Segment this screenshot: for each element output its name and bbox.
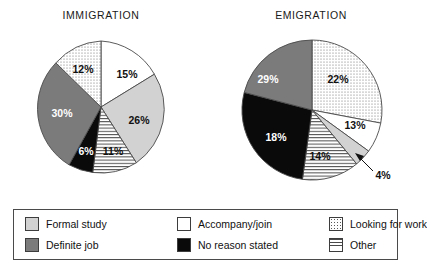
legend-label-other: Other xyxy=(350,240,376,251)
label-emigration-looking-for-work: 22% xyxy=(327,73,349,85)
immigration-chart-title: IMMIGRATION xyxy=(0,9,202,21)
label-emigration-formal-study: 4% xyxy=(375,169,391,181)
dark-gray-swatch-icon xyxy=(25,238,39,252)
label-immigration-formal-study: 26% xyxy=(128,114,150,126)
legend-label-accompany-join: Accompany/join xyxy=(198,219,272,230)
emigration-pie-chart: 22% 13% 14% 18% 29% 4% xyxy=(206,22,412,192)
label-emigration-no-reason-stated: 18% xyxy=(265,131,287,143)
legend-label-formal-study: Formal study xyxy=(46,219,107,230)
legend-item-other: Other xyxy=(329,238,410,252)
legend-label-looking-for-work: Looking for work xyxy=(350,219,427,230)
dotted-swatch-icon xyxy=(329,217,343,231)
legend-item-no-reason-stated: No reason stated xyxy=(177,238,329,252)
legend-label-no-reason-stated: No reason stated xyxy=(198,240,278,251)
white-swatch-icon xyxy=(177,217,191,231)
legend-label-definite-job: Definite job xyxy=(46,240,99,251)
black-swatch-icon xyxy=(177,238,191,252)
legend-item-definite-job: Definite job xyxy=(25,238,177,252)
label-immigration-accompany-join: 15% xyxy=(116,68,138,80)
label-emigration-other: 14% xyxy=(309,150,331,162)
label-immigration-other: 11% xyxy=(103,145,124,157)
label-immigration-looking-for-work: 12% xyxy=(72,63,94,75)
legend-item-looking-for-work: Looking for work xyxy=(329,217,410,231)
label-emigration-accompany-join: 13% xyxy=(344,119,366,131)
legend-box: Formal study Accompany/join Looking for … xyxy=(13,209,398,260)
horizontal-lines-swatch-icon xyxy=(329,238,343,252)
label-immigration-definite-job: 30% xyxy=(51,107,73,119)
immigration-pie-chart: 15% 26% 11% 6% 30% 12% xyxy=(0,22,206,182)
label-emigration-definite-job: 29% xyxy=(257,73,279,85)
legend-item-accompany-join: Accompany/join xyxy=(177,217,329,231)
legend-item-formal-study: Formal study xyxy=(25,217,177,231)
emigration-chart-title: EMIGRATION xyxy=(210,9,412,21)
label-immigration-no-reason-stated: 6% xyxy=(78,145,94,157)
light-gray-swatch-icon xyxy=(25,217,39,231)
